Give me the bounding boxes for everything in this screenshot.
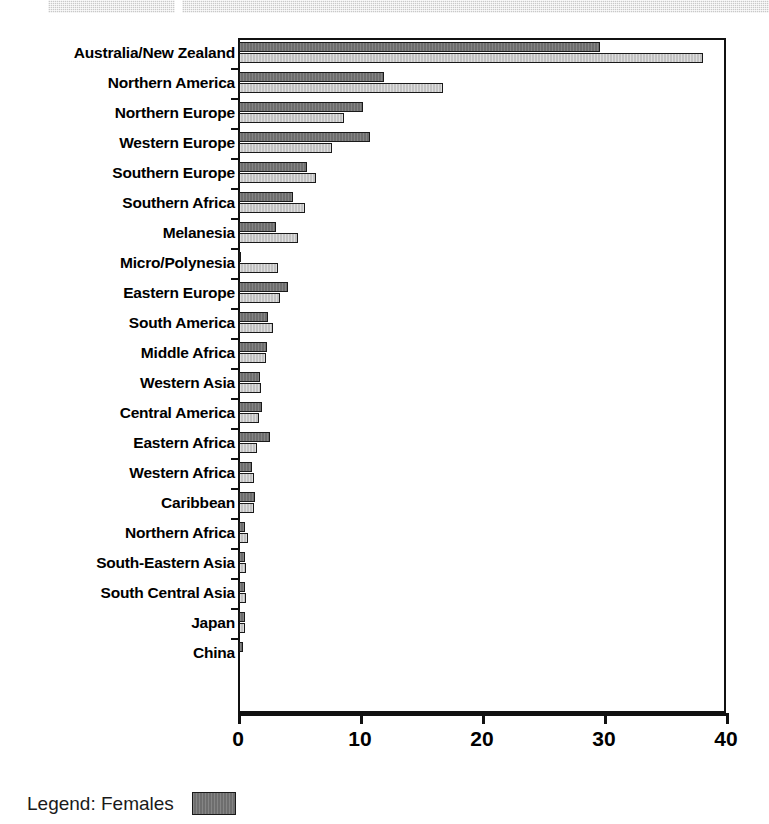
bar-males bbox=[239, 533, 248, 543]
category-label: Melanesia bbox=[0, 218, 235, 248]
bar-group bbox=[239, 398, 727, 428]
bar-group bbox=[239, 488, 727, 518]
bar-females bbox=[239, 522, 245, 532]
bar-group bbox=[239, 98, 727, 128]
category-label: Eastern Europe bbox=[0, 278, 235, 308]
legend-swatch-females bbox=[192, 792, 236, 815]
chart-row: Japan bbox=[0, 608, 769, 638]
bar-group bbox=[239, 428, 727, 458]
x-axis-tick-label: 30 bbox=[574, 727, 634, 751]
bar-females bbox=[239, 102, 363, 112]
bar-males bbox=[239, 503, 254, 513]
bar-females bbox=[239, 432, 270, 442]
bar-females bbox=[239, 582, 245, 592]
bar-females bbox=[239, 342, 267, 352]
bar-males bbox=[239, 203, 305, 213]
bar-group bbox=[239, 458, 727, 488]
category-label: Northern Africa bbox=[0, 518, 235, 548]
legend-label: Legend: Females bbox=[27, 793, 174, 815]
bar-males bbox=[239, 293, 280, 303]
category-label: Northern Europe bbox=[0, 98, 235, 128]
x-axis-tick bbox=[238, 713, 241, 724]
bar-males bbox=[239, 263, 278, 273]
chart-row: Northern Africa bbox=[0, 518, 769, 548]
bar-males bbox=[239, 593, 246, 603]
category-label: Western Europe bbox=[0, 128, 235, 158]
bar-males bbox=[239, 413, 259, 423]
bar-group bbox=[239, 218, 727, 248]
category-label: Japan bbox=[0, 608, 235, 638]
chart-row: Western Asia bbox=[0, 368, 769, 398]
chart-row: South America bbox=[0, 308, 769, 338]
chart-row: Western Europe bbox=[0, 128, 769, 158]
bar-group bbox=[239, 368, 727, 398]
bar-group bbox=[239, 188, 727, 218]
bar-group bbox=[239, 278, 727, 308]
x-axis-tick-label: 0 bbox=[208, 727, 268, 751]
chart-row: Caribbean bbox=[0, 488, 769, 518]
bar-females bbox=[239, 192, 293, 202]
chart-row: South-Eastern Asia bbox=[0, 548, 769, 578]
bar-females bbox=[239, 312, 268, 322]
x-axis-tick bbox=[604, 713, 607, 724]
bar-females bbox=[239, 462, 252, 472]
bar-group bbox=[239, 128, 727, 158]
bar-males bbox=[239, 383, 261, 393]
bar-males bbox=[239, 623, 245, 633]
legend: Legend: Females bbox=[27, 792, 236, 815]
category-label: Eastern Africa bbox=[0, 428, 235, 458]
bar-females bbox=[239, 42, 600, 52]
bar-females bbox=[239, 612, 245, 622]
category-label: Australia/New Zealand bbox=[0, 38, 235, 68]
chart-row: Eastern Europe bbox=[0, 278, 769, 308]
bar-group bbox=[239, 68, 727, 98]
chart-row: China bbox=[0, 638, 769, 668]
bar-males bbox=[239, 443, 257, 453]
category-label: Western Africa bbox=[0, 458, 235, 488]
category-label: Middle Africa bbox=[0, 338, 235, 368]
category-label: Southern Europe bbox=[0, 158, 235, 188]
category-label: South America bbox=[0, 308, 235, 338]
chart-row: South Central Asia bbox=[0, 578, 769, 608]
chart-row: Northern America bbox=[0, 68, 769, 98]
bar-females bbox=[239, 282, 288, 292]
bar-females bbox=[239, 642, 243, 652]
bar-females bbox=[239, 402, 262, 412]
bar-males bbox=[239, 473, 254, 483]
chart-row: Melanesia bbox=[0, 218, 769, 248]
bar-males bbox=[239, 53, 703, 63]
chart-row: Micro/Polynesia bbox=[0, 248, 769, 278]
category-label: Southern Africa bbox=[0, 188, 235, 218]
category-label: China bbox=[0, 638, 235, 668]
bar-males bbox=[239, 233, 298, 243]
chart-row: Northern Europe bbox=[0, 98, 769, 128]
chart-row: Southern Africa bbox=[0, 188, 769, 218]
bar-group bbox=[239, 518, 727, 548]
category-label: South-Eastern Asia bbox=[0, 548, 235, 578]
category-label: Central America bbox=[0, 398, 235, 428]
bar-group bbox=[239, 38, 727, 68]
bar-females bbox=[239, 222, 276, 232]
x-axis-tick-label: 40 bbox=[696, 727, 756, 751]
x-axis-tick-label: 20 bbox=[452, 727, 512, 751]
chart-row: Southern Europe bbox=[0, 158, 769, 188]
bar-males bbox=[239, 353, 266, 363]
bar-females bbox=[239, 552, 245, 562]
bar-group bbox=[239, 548, 727, 578]
bar-females bbox=[239, 72, 384, 82]
bar-group bbox=[239, 158, 727, 188]
bar-females bbox=[239, 162, 307, 172]
chart-row: Eastern Africa bbox=[0, 428, 769, 458]
bar-females bbox=[239, 492, 255, 502]
x-axis-tick-label: 10 bbox=[330, 727, 390, 751]
bar-males bbox=[239, 83, 443, 93]
chart-row: Western Africa bbox=[0, 458, 769, 488]
bar-group bbox=[239, 308, 727, 338]
bar-group bbox=[239, 248, 727, 278]
category-label: Caribbean bbox=[0, 488, 235, 518]
x-axis-tick bbox=[360, 713, 363, 724]
chart-row: Central America bbox=[0, 398, 769, 428]
bar-males bbox=[239, 113, 344, 123]
scan-artifact-band bbox=[0, 0, 769, 13]
bar-females bbox=[239, 372, 260, 382]
